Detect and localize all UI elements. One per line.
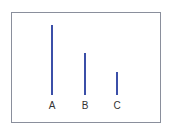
label-c: C <box>111 101 123 111</box>
line-c <box>116 72 118 95</box>
label-a: A <box>46 101 58 111</box>
line-b <box>84 53 86 95</box>
label-b: B <box>79 101 91 111</box>
line-a <box>51 25 53 95</box>
